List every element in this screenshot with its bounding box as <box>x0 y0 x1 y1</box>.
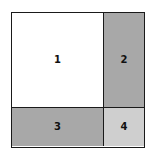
cell-3-label: 3 <box>54 122 61 132</box>
cell-2-label: 2 <box>121 55 128 65</box>
cell-1-label: 1 <box>54 55 61 65</box>
cell-4: 4 <box>103 107 144 146</box>
cell-1: 1 <box>12 13 103 107</box>
cell-4-label: 4 <box>121 122 128 132</box>
cell-2: 2 <box>103 13 144 107</box>
cell-3: 3 <box>12 107 103 146</box>
partitioned-square-diagram: 1 2 3 4 <box>11 12 145 148</box>
